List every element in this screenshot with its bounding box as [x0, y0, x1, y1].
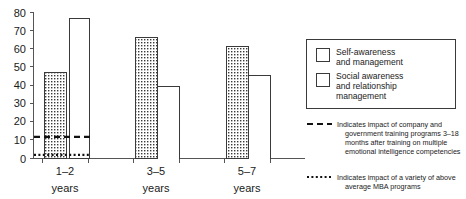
- bar-group-3-5-years: [135, 38, 180, 159]
- chart-figure: 80 70 60 50 40 30 20 10 0: [0, 0, 466, 199]
- note-dashed-line1: Indicates impact of company and: [337, 120, 442, 129]
- bar-chart: 80 70 60 50 40 30 20 10 0: [0, 0, 466, 199]
- category-label-5-7: 5–7: [238, 165, 256, 177]
- y-tick-label-70: 70: [14, 25, 26, 37]
- legend-label-social-awareness-line2: and relationship: [336, 81, 397, 91]
- legend-label-self-awareness-line1: Self-awareness: [336, 47, 395, 57]
- legend-label-self-awareness-line2: and management: [336, 57, 403, 67]
- bar-social-awareness-5-7-years: [248, 75, 271, 158]
- note-dotted-mba-impact: Indicates impact of a variety of above a…: [307, 173, 456, 191]
- bar-social-awareness-3-5-years: [157, 86, 180, 159]
- note-dashed-line2: government training programs 3–18: [345, 129, 459, 138]
- category-label-3-5-years: years: [143, 182, 170, 194]
- chart-legend: Self-awareness and management Social awa…: [307, 40, 456, 109]
- legend-swatch-white-icon: [317, 74, 330, 87]
- note-dashed-training-impact: Indicates impact of company and governme…: [307, 120, 461, 156]
- y-axis: 80 70 60 50 40 30 20 10 0: [14, 7, 34, 165]
- y-tick-label-30: 30: [14, 97, 26, 109]
- note-dashed-line4: emotional intelligence competencies: [345, 147, 461, 156]
- bar-self-awareness-3-5-years: [135, 38, 157, 159]
- y-tick-label-60: 60: [14, 43, 26, 55]
- note-dashed-line3: months after training on multiple: [345, 138, 447, 147]
- note-dotted-line2: average MBA programs: [345, 182, 421, 191]
- y-tick-label-20: 20: [14, 115, 26, 127]
- y-tick-label-80: 80: [14, 7, 26, 19]
- category-label-5-7-years: years: [234, 182, 261, 194]
- legend-label-social-awareness-line1: Social awareness: [336, 71, 403, 81]
- bar-self-awareness-1-2-years: [44, 72, 66, 159]
- legend-label-social-awareness-line3: management: [336, 91, 387, 101]
- category-label-1-2-years: years: [52, 182, 79, 194]
- bar-self-awareness-5-7-years: [226, 46, 248, 158]
- y-tick-label-40: 40: [14, 79, 26, 91]
- category-label-3-5: 3–5: [147, 165, 165, 177]
- note-dotted-line1: Indicates impact of a variety of above: [337, 173, 456, 182]
- y-tick-label-50: 50: [14, 61, 26, 73]
- bar-group-5-7-years: [226, 46, 271, 158]
- x-axis: [34, 159, 306, 164]
- x-axis-category-labels: 1–2 years 3–5 years 5–7 years: [52, 165, 261, 194]
- y-tick-label-0: 0: [20, 153, 26, 165]
- category-label-1-2: 1–2: [56, 165, 74, 177]
- legend-swatch-dotted-icon: [317, 49, 330, 62]
- y-tick-label-10: 10: [14, 134, 26, 146]
